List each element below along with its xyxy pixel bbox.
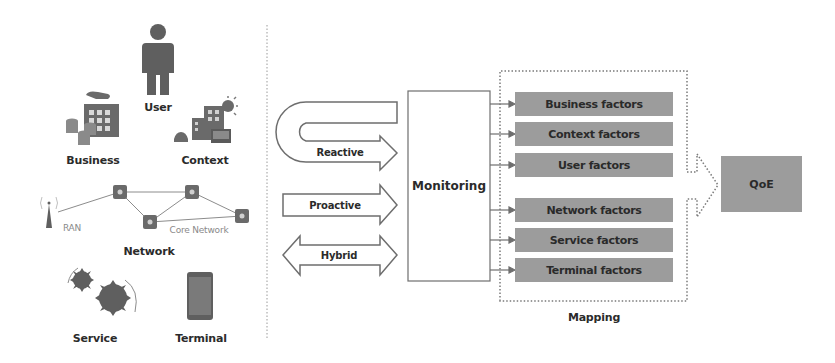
service-label: Service: [73, 332, 117, 345]
business-building-icon: [66, 91, 119, 145]
smartphone-icon: [187, 272, 213, 320]
network-label: Network: [124, 245, 175, 258]
factor-box-service: Service factors: [515, 228, 673, 252]
qoe-box: QoE: [721, 156, 802, 212]
reactive-label: Reactive: [316, 147, 363, 158]
cell-tower-icon: [41, 197, 58, 228]
monitoring-connectors: [490, 101, 515, 273]
core-network-label: Core Network: [170, 225, 229, 235]
terminal-label: Terminal: [175, 332, 227, 345]
business-label: Business: [66, 154, 119, 167]
mapping-label: Mapping: [568, 311, 620, 324]
qoe-label: QoE: [749, 178, 773, 191]
proactive-label: Proactive: [309, 200, 361, 211]
factor-box-context: Context factors: [515, 122, 673, 146]
factor-box-network: Network factors: [515, 198, 673, 222]
reactive-arrow: [276, 102, 397, 170]
user-label: User: [144, 101, 172, 114]
monitoring-box: Monitoring: [408, 91, 490, 281]
hybrid-label: Hybrid: [321, 250, 357, 261]
factor-box-business: Business factors: [515, 92, 673, 116]
gears-icon: [68, 268, 136, 316]
factor-box-user: User factors: [515, 153, 673, 177]
monitoring-label: Monitoring: [412, 179, 486, 193]
ran-label: RAN: [63, 223, 81, 233]
context-label: Context: [181, 154, 228, 167]
person-icon: [142, 24, 174, 95]
factor-box-terminal: Terminal factors: [515, 258, 673, 282]
context-city-icon: [174, 96, 238, 143]
